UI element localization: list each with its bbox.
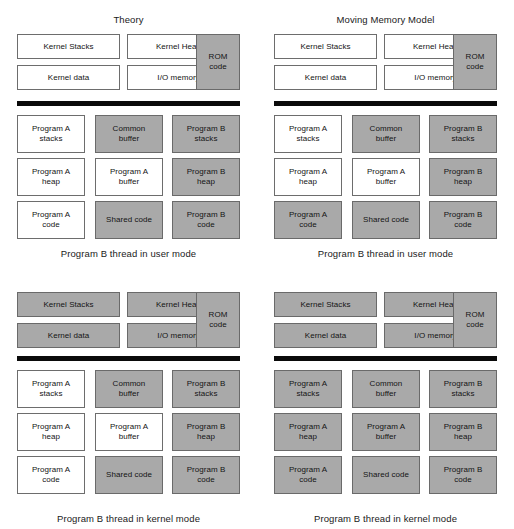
common-buffer-box-label: Common buffer (112, 124, 147, 144)
shared-code-box-label: Shared code (105, 215, 153, 225)
program-a-heap-box: Program A heap (274, 413, 342, 451)
program-a-heap-box-label: Program A heap (288, 422, 328, 442)
kernel-stacks-box-label: Kernel Stacks (42, 300, 94, 310)
program-b-stacks-box: Program B stacks (172, 370, 240, 408)
kernel-stacks-box: Kernel Stacks (17, 34, 120, 59)
panel-theory-kernel-mode: Kernel StacksKernel HeapKernel dataI/O m… (0, 265, 257, 529)
program-a-heap-box: Program A heap (17, 158, 85, 196)
user-memory-region: Program A stacksCommon bufferProgram B s… (274, 370, 497, 494)
kernel-heap-box-label: Kernel Heap (412, 300, 459, 310)
panel-theory-user-mode: TheoryKernel StacksKernel HeapKernel dat… (0, 0, 257, 264)
program-b-heap-box: Program B heap (429, 158, 497, 196)
program-a-buffer-box-label: Program A buffer (366, 422, 406, 442)
program-a-heap-box: Program A heap (17, 413, 85, 451)
kernel-stacks-box-label: Kernel Stacks (42, 42, 94, 52)
panel-caption: Program B thread in kernel mode (0, 513, 257, 524)
kernel-memory-region: Kernel StacksKernel HeapKernel dataI/O m… (274, 34, 497, 90)
memory-model-figure: TheoryKernel StacksKernel HeapKernel dat… (0, 0, 514, 529)
program-b-code-box-label: Program B code (186, 210, 227, 230)
program-b-code-box: Program B code (172, 201, 240, 239)
kernel-data-box-label: Kernel data (47, 73, 90, 83)
rom-code-box-label: ROM code (208, 310, 229, 330)
program-a-buffer-box: Program A buffer (352, 158, 420, 196)
program-b-code-box-label: Program B code (443, 210, 484, 230)
kernel-user-divider (17, 356, 240, 361)
program-a-code-box-label: Program A code (31, 465, 71, 485)
program-a-stacks-box: Program A stacks (274, 370, 342, 408)
program-a-code-box-label: Program A code (288, 465, 328, 485)
program-a-heap-box-label: Program A heap (31, 167, 71, 187)
program-b-heap-box-label: Program B heap (186, 422, 227, 442)
program-a-stacks-box-label: Program A stacks (31, 124, 71, 144)
common-buffer-box: Common buffer (95, 370, 163, 408)
program-a-buffer-box: Program A buffer (352, 413, 420, 451)
program-a-code-box: Program A code (17, 201, 85, 239)
panel-title: Moving Memory Model (257, 14, 514, 25)
program-a-buffer-box: Program A buffer (95, 413, 163, 451)
program-a-buffer-box: Program A buffer (95, 158, 163, 196)
common-buffer-box: Common buffer (352, 115, 420, 153)
program-b-heap-box-label: Program B heap (186, 167, 227, 187)
kernel-user-divider (274, 356, 497, 361)
rom-code-box-label: ROM code (465, 52, 486, 72)
program-a-code-box: Program A code (274, 201, 342, 239)
shared-code-box-label: Shared code (362, 215, 410, 225)
kernel-user-divider (274, 101, 497, 106)
panel-caption: Program B thread in user mode (257, 248, 514, 259)
rom-code-box: ROM code (196, 34, 240, 90)
io-memory-box-label: I/O memory (413, 331, 457, 341)
kernel-data-box: Kernel data (274, 65, 377, 90)
rom-code-box-label: ROM code (208, 52, 229, 72)
program-b-heap-box: Program B heap (172, 158, 240, 196)
kernel-stacks-box-label: Kernel Stacks (299, 300, 351, 310)
kernel-data-box-label: Kernel data (47, 331, 90, 341)
program-a-buffer-box-label: Program A buffer (366, 167, 406, 187)
program-b-code-box-label: Program B code (186, 465, 227, 485)
panel-caption: Program B thread in kernel mode (257, 513, 514, 524)
program-b-heap-box: Program B heap (172, 413, 240, 451)
common-buffer-box-label: Common buffer (112, 379, 147, 399)
program-a-code-box: Program A code (17, 456, 85, 494)
program-b-stacks-box-label: Program B stacks (443, 124, 484, 144)
kernel-memory-region: Kernel StacksKernel HeapKernel dataI/O m… (17, 292, 240, 348)
common-buffer-box: Common buffer (95, 115, 163, 153)
program-a-heap-box-label: Program A heap (31, 422, 71, 442)
kernel-heap-box-label: Kernel Heap (155, 42, 202, 52)
program-b-stacks-box: Program B stacks (429, 115, 497, 153)
program-b-stacks-box: Program B stacks (172, 115, 240, 153)
program-b-heap-box-label: Program B heap (443, 422, 484, 442)
program-a-stacks-box-label: Program A stacks (31, 379, 71, 399)
program-a-heap-box-label: Program A heap (288, 167, 328, 187)
shared-code-box-label: Shared code (105, 470, 153, 480)
shared-code-box: Shared code (95, 201, 163, 239)
program-a-stacks-box: Program A stacks (17, 370, 85, 408)
program-b-stacks-box-label: Program B stacks (186, 124, 227, 144)
shared-code-box-label: Shared code (362, 470, 410, 480)
shared-code-box: Shared code (352, 456, 420, 494)
program-b-code-box-label: Program B code (443, 465, 484, 485)
program-b-heap-box: Program B heap (429, 413, 497, 451)
common-buffer-box: Common buffer (352, 370, 420, 408)
kernel-data-box-label: Kernel data (304, 73, 347, 83)
program-b-stacks-box: Program B stacks (429, 370, 497, 408)
program-a-stacks-box-label: Program A stacks (288, 124, 328, 144)
kernel-heap-box-label: Kernel Heap (412, 42, 459, 52)
program-a-stacks-box: Program A stacks (17, 115, 85, 153)
user-memory-region: Program A stacksCommon bufferProgram B s… (17, 370, 240, 494)
panel-moving-memory-model-kernel-mode: Kernel StacksKernel HeapKernel dataI/O m… (257, 265, 514, 529)
program-b-heap-box-label: Program B heap (443, 167, 484, 187)
kernel-memory-region: Kernel StacksKernel HeapKernel dataI/O m… (17, 34, 240, 90)
rom-code-box: ROM code (453, 292, 497, 348)
user-memory-region: Program A stacksCommon bufferProgram B s… (274, 115, 497, 239)
kernel-stacks-box: Kernel Stacks (17, 292, 120, 317)
program-b-stacks-box-label: Program B stacks (443, 379, 484, 399)
shared-code-box: Shared code (352, 201, 420, 239)
program-b-code-box: Program B code (172, 456, 240, 494)
program-a-code-box-label: Program A code (31, 210, 71, 230)
rom-code-box: ROM code (453, 34, 497, 90)
common-buffer-box-label: Common buffer (369, 124, 404, 144)
panel-title: Theory (0, 14, 257, 25)
program-a-code-box-label: Program A code (288, 210, 328, 230)
program-a-stacks-box-label: Program A stacks (288, 379, 328, 399)
program-b-stacks-box-label: Program B stacks (186, 379, 227, 399)
